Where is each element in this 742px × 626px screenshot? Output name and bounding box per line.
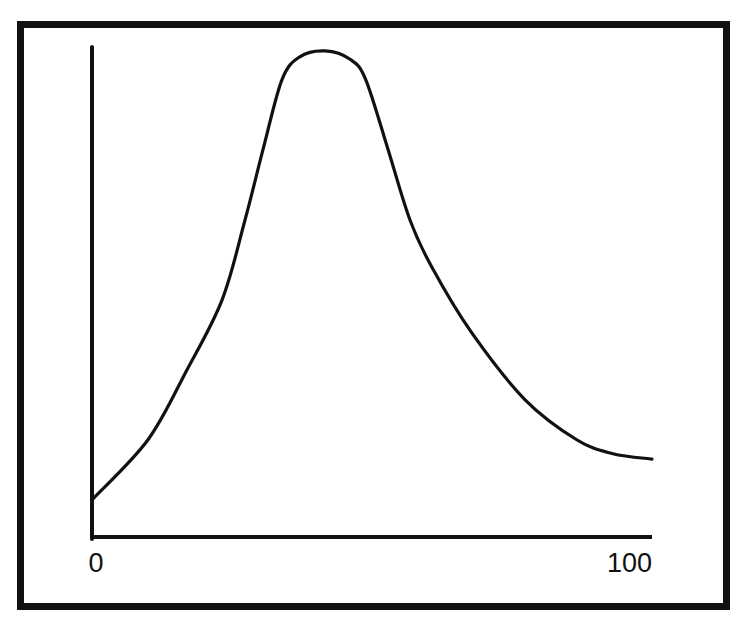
chart-frame <box>21 25 727 607</box>
data-curve <box>93 51 652 499</box>
x-tick-label-max: 100 <box>607 548 652 578</box>
x-tick-label-min: 0 <box>88 548 103 578</box>
chart: 0 100 <box>0 0 742 626</box>
